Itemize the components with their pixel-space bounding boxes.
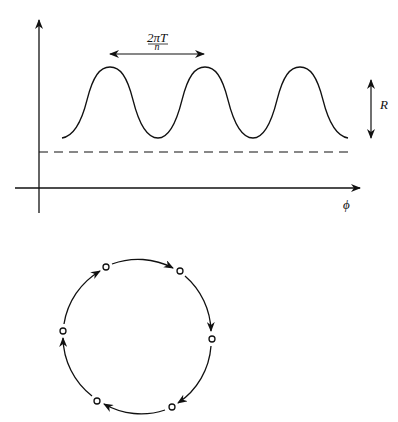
cycle-arrow-5 — [63, 338, 92, 396]
cycle-diagram — [60, 259, 215, 414]
cycle-arrow-6 — [64, 271, 100, 324]
amplitude-label: R — [379, 97, 388, 112]
x-axis-label: ϕ — [343, 197, 350, 212]
cycle-node-3 — [209, 336, 215, 342]
cycle-arrow-3 — [178, 346, 211, 403]
cycle-arrow-4 — [104, 404, 165, 414]
cycle-node-6 — [60, 328, 66, 334]
cycle-node-4 — [169, 404, 175, 410]
top-plot: 2πT n R ϕ — [15, 20, 388, 213]
cycle-node-2 — [177, 268, 183, 274]
cycle-arrow-2 — [185, 276, 211, 331]
figure: 2πT n R ϕ — [0, 0, 398, 422]
cycle-node-1 — [103, 264, 109, 270]
period-label-denominator: n — [155, 41, 160, 52]
cycle-node-5 — [94, 398, 100, 404]
waveform-curve — [62, 67, 348, 138]
cycle-arrow-1 — [112, 259, 173, 268]
